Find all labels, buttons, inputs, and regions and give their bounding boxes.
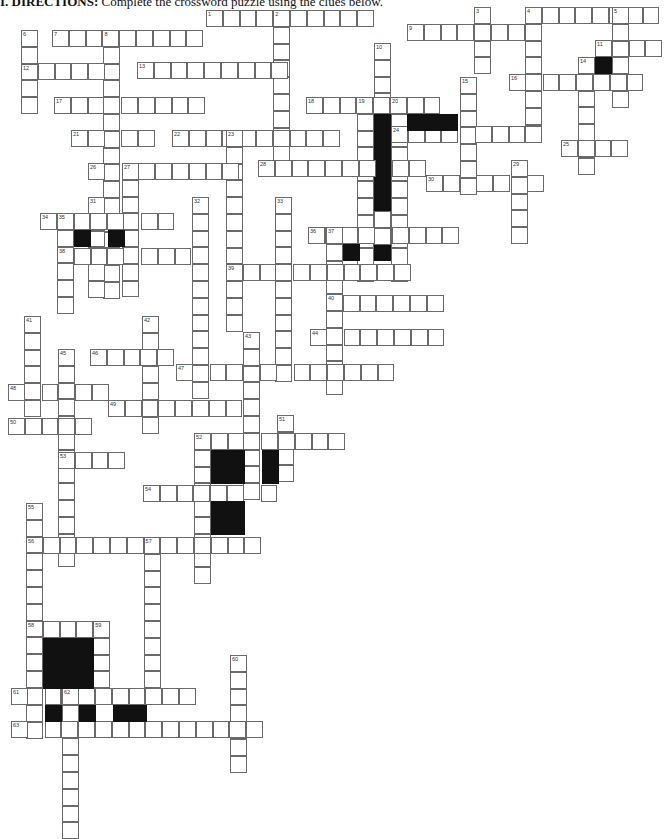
crossword-cell[interactable] (226, 180, 243, 197)
crossword-cell[interactable] (172, 97, 189, 114)
crossword-cell[interactable] (171, 62, 188, 79)
crossword-cell[interactable] (592, 7, 609, 24)
crossword-cell[interactable] (62, 789, 79, 806)
crossword-cell[interactable] (629, 40, 646, 57)
crossword-cell[interactable] (342, 227, 359, 244)
crossword-cell[interactable] (474, 41, 491, 58)
crossword-cell[interactable] (107, 349, 124, 366)
crossword-cell[interactable] (127, 537, 144, 554)
crossword-cell[interactable] (160, 485, 177, 502)
crossword-cell[interactable]: 22 (172, 130, 189, 147)
crossword-cell[interactable] (71, 97, 88, 114)
crossword-cell[interactable]: 6 (21, 30, 38, 47)
crossword-cell[interactable] (243, 416, 260, 433)
crossword-cell[interactable] (103, 64, 120, 81)
crossword-cell[interactable] (243, 483, 260, 500)
crossword-cell[interactable] (192, 382, 209, 399)
crossword-cell[interactable] (26, 671, 43, 688)
crossword-cell[interactable] (142, 417, 159, 434)
crossword-cell[interactable] (129, 688, 146, 705)
crossword-cell[interactable] (256, 130, 273, 147)
crossword-cell[interactable] (122, 213, 139, 230)
crossword-cell[interactable] (426, 227, 443, 244)
crossword-cell[interactable] (71, 63, 88, 80)
crossword-cell[interactable] (43, 537, 60, 554)
crossword-cell[interactable] (88, 97, 105, 114)
crossword-cell[interactable] (26, 570, 43, 587)
crossword-cell[interactable] (261, 433, 278, 450)
crossword-cell[interactable] (243, 399, 260, 416)
crossword-cell[interactable] (243, 433, 260, 450)
crossword-cell[interactable] (243, 466, 260, 483)
crossword-cell[interactable] (243, 450, 260, 467)
crossword-cell[interactable] (357, 114, 374, 131)
crossword-cell[interactable] (103, 114, 120, 131)
crossword-cell[interactable] (122, 180, 139, 197)
crossword-cell[interactable] (194, 450, 211, 467)
crossword-cell[interactable] (376, 295, 393, 312)
crossword-cell[interactable] (275, 281, 292, 298)
crossword-cell[interactable]: 12 (21, 64, 38, 81)
crossword-cell[interactable] (424, 24, 441, 41)
crossword-cell[interactable] (221, 62, 238, 79)
crossword-cell[interactable] (344, 364, 361, 381)
crossword-cell[interactable] (93, 638, 110, 655)
crossword-cell[interactable] (525, 41, 542, 58)
crossword-cell[interactable] (112, 721, 129, 738)
crossword-cell[interactable] (144, 621, 161, 638)
crossword-cell[interactable] (428, 329, 445, 346)
crossword-cell[interactable] (141, 248, 158, 265)
crossword-cell[interactable] (273, 44, 290, 61)
crossword-cell[interactable] (107, 213, 124, 230)
crossword-cell[interactable] (260, 264, 277, 281)
crossword-cell[interactable]: 34 (40, 213, 57, 230)
crossword-cell[interactable] (192, 214, 209, 231)
crossword-cell[interactable] (578, 124, 595, 141)
crossword-cell[interactable] (410, 295, 427, 312)
crossword-cell[interactable] (162, 688, 179, 705)
crossword-cell[interactable] (162, 721, 179, 738)
crossword-cell[interactable] (308, 160, 325, 177)
crossword-cell[interactable] (427, 295, 444, 312)
crossword-cell[interactable] (326, 311, 343, 328)
crossword-cell[interactable] (226, 248, 243, 265)
crossword-cell[interactable] (273, 130, 290, 147)
crossword-cell[interactable] (57, 230, 74, 247)
crossword-cell[interactable] (360, 329, 377, 346)
crossword-cell[interactable] (55, 63, 72, 80)
crossword-cell[interactable] (158, 248, 175, 265)
crossword-cell[interactable] (578, 107, 595, 124)
crossword-cell[interactable] (409, 227, 426, 244)
crossword-cell[interactable]: 28 (258, 160, 275, 177)
crossword-cell[interactable] (460, 111, 477, 128)
crossword-cell[interactable] (138, 130, 155, 147)
crossword-cell[interactable] (42, 418, 59, 435)
crossword-cell[interactable] (21, 97, 38, 114)
crossword-cell[interactable] (26, 654, 43, 671)
crossword-cell[interactable] (377, 329, 394, 346)
crossword-cell[interactable] (344, 264, 361, 281)
crossword-cell[interactable]: 52 (194, 433, 211, 450)
crossword-cell[interactable] (88, 264, 105, 281)
crossword-cell[interactable] (110, 537, 127, 554)
crossword-cell[interactable] (360, 264, 377, 281)
crossword-cell[interactable]: 36 (308, 227, 325, 244)
crossword-cell[interactable] (227, 485, 244, 502)
crossword-cell[interactable] (144, 638, 161, 655)
crossword-cell[interactable] (278, 433, 295, 450)
crossword-cell[interactable] (255, 62, 272, 79)
crossword-cell[interactable] (323, 130, 340, 147)
crossword-cell[interactable] (24, 366, 41, 383)
crossword-cell[interactable] (24, 333, 41, 350)
crossword-cell[interactable] (192, 400, 209, 417)
crossword-cell[interactable] (61, 721, 78, 738)
crossword-cell[interactable] (57, 297, 74, 314)
crossword-cell[interactable] (86, 30, 103, 47)
crossword-cell[interactable] (93, 537, 110, 554)
crossword-cell[interactable] (75, 452, 92, 469)
crossword-cell[interactable] (21, 47, 38, 64)
crossword-cell[interactable] (511, 227, 528, 244)
crossword-cell[interactable] (275, 298, 292, 315)
crossword-cell[interactable] (226, 298, 243, 315)
crossword-cell[interactable] (228, 537, 245, 554)
